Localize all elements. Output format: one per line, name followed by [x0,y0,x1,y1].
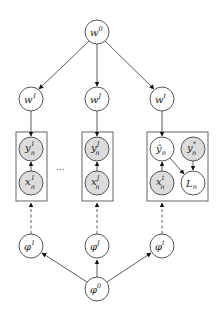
edge-w0-wt [105,41,154,89]
node-yJ: yJn [85,137,109,161]
edge-phi0-phi1 [42,253,87,282]
node-x1: x1n [19,171,43,195]
node-yhat: ŷn [150,137,174,161]
node-phi1: φ1 [19,234,43,258]
edge-phi0-phit [107,253,151,282]
node-xJ: xJn [85,171,109,195]
node-wJ: wJ [85,87,109,111]
node-phit: φt [150,234,174,258]
node-Ln: Ln [181,171,205,195]
ellipsis: ··· [56,165,65,175]
node-xt: xtn [150,171,174,195]
node-phi0: φ0 [85,277,109,301]
edge-yhat-Ln [170,158,184,174]
node-w0: w0 [85,20,109,44]
node-phiJ: φJ [85,234,109,258]
node-y1: y1n [19,137,43,161]
node-wt: wt [150,87,174,111]
edge-w0-w1 [39,41,89,89]
graphical-model-diagram: w0 w1 wJ wt y1n x1n ··· yJn xJn ŷn y*n x… [0,0,220,315]
node-w1: w1 [19,87,43,111]
node-ystar: y*n [181,137,205,161]
